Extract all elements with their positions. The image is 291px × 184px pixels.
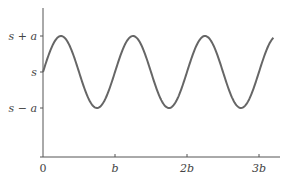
x-tick-label: 2b — [179, 162, 194, 175]
y-tick-label: s — [31, 66, 37, 79]
sinusoid-chart: s + ass − a 0b2b3b — [0, 0, 291, 184]
x-tick-label: 3b — [252, 162, 266, 175]
y-ticks: s + ass − a — [9, 30, 43, 115]
sine-curve — [43, 36, 273, 108]
y-tick-label: s + a — [9, 30, 37, 43]
y-tick-label: s − a — [9, 102, 37, 115]
x-tick-label: b — [111, 162, 118, 175]
x-tick-label: 0 — [40, 162, 47, 175]
